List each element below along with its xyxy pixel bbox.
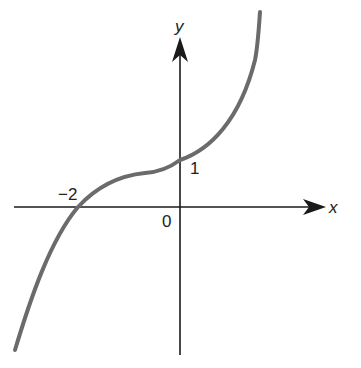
x-axis-label: x xyxy=(328,198,338,217)
function-curve xyxy=(15,12,260,350)
y-axis-label: y xyxy=(174,17,185,36)
x-intercept-label: −2 xyxy=(58,185,77,204)
y-intercept-label: 1 xyxy=(190,159,199,178)
origin-label: 0 xyxy=(162,212,171,231)
function-graph: x y −2 1 0 xyxy=(0,0,361,368)
